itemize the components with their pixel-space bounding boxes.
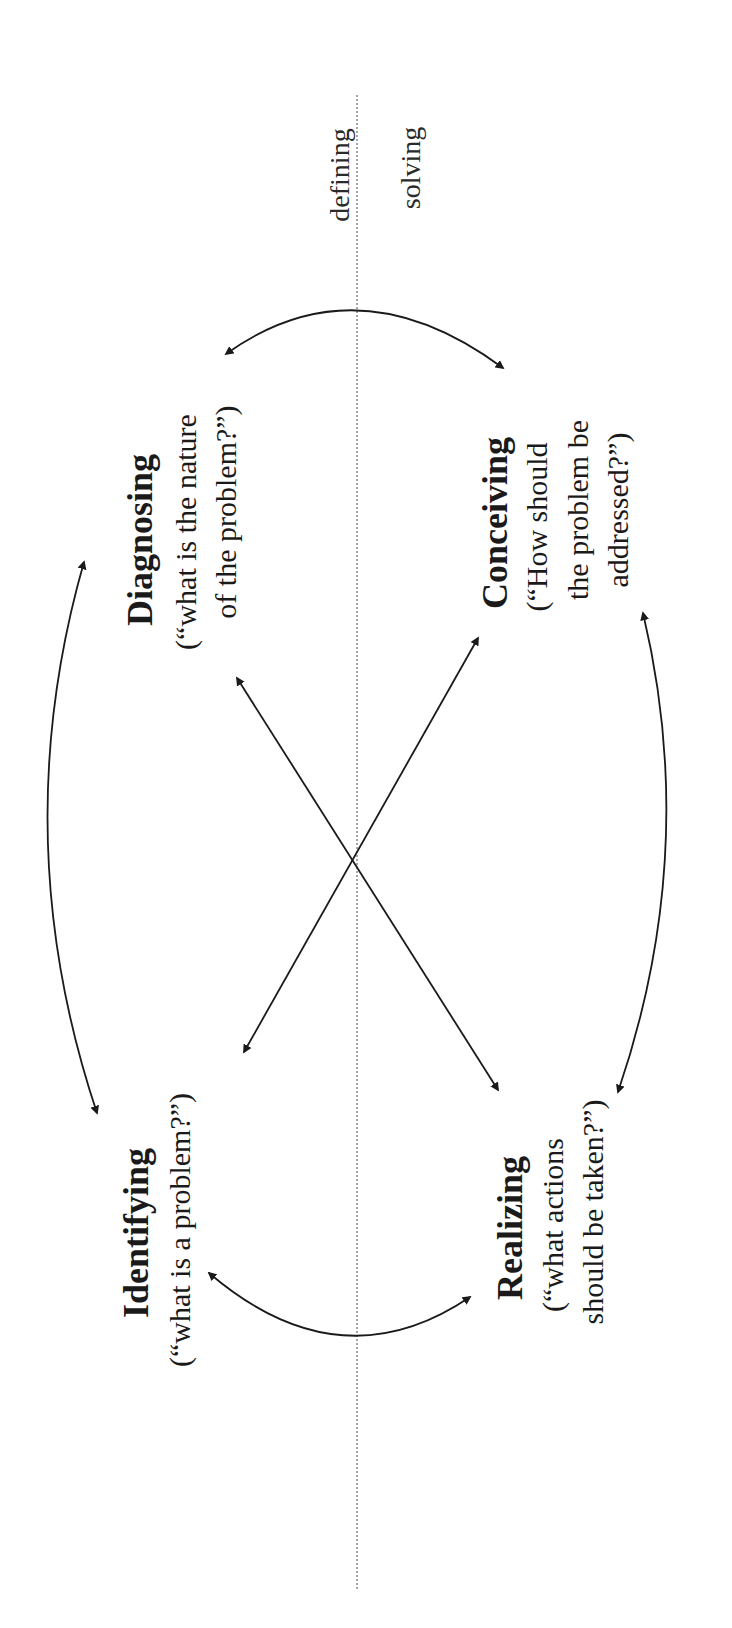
node-question-line: addressed?”)	[601, 433, 635, 588]
arrow-conceiving-realizing	[618, 613, 666, 1092]
node-question-line: (“what actions	[536, 1138, 570, 1312]
node-realizing: Realizing (“what actions should be taken…	[490, 1100, 610, 1325]
region-label-solving: solving	[395, 127, 426, 209]
node-question-line: the problem be	[561, 420, 594, 600]
node-question-line: (“How should	[520, 442, 554, 611]
arrow-identifying-conceiving	[244, 638, 478, 1052]
node-question-line: (“what is a problem?”)	[163, 1093, 197, 1367]
arrow-diagnosing-conceiving	[226, 310, 503, 368]
problem-cycle-diagram: defining solving Diagnosing (“what is th…	[0, 0, 732, 1628]
node-title: Identifying	[116, 1148, 156, 1318]
node-identifying: Identifying (“what is a problem?”)	[116, 1093, 197, 1367]
node-question-line: should be taken?”)	[576, 1100, 610, 1325]
node-title: Diagnosing	[120, 454, 160, 626]
arrow-diagnosing-realizing	[237, 678, 498, 1090]
arrow-identifying-diagnosing	[48, 562, 97, 1113]
node-title: Realizing	[490, 1156, 530, 1300]
node-title: Conceiving	[475, 437, 515, 609]
node-question-line: (“what is the nature	[169, 414, 203, 650]
arrow-identifying-realizing	[209, 1273, 470, 1336]
node-question-line: of the problem?”)	[209, 405, 243, 618]
region-label-defining: defining	[324, 128, 355, 221]
node-conceiving: Conceiving (“How should the problem be a…	[475, 420, 635, 612]
node-diagnosing: Diagnosing (“what is the nature of the p…	[120, 405, 243, 650]
